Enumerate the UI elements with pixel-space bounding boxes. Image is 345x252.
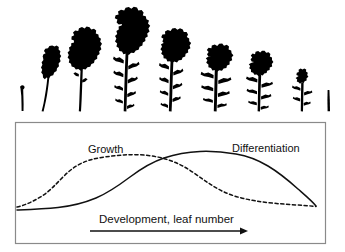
figure-container: Growth Differentiation Development, leaf… bbox=[0, 0, 345, 252]
development-axis-label: Development, leaf number bbox=[99, 213, 234, 225]
differentiation-label: Differentiation bbox=[232, 142, 300, 154]
growth-label: Growth bbox=[88, 143, 123, 155]
figure-svg: Growth Differentiation Development, leaf… bbox=[0, 0, 345, 252]
chart-panel: Growth Differentiation Development, leaf… bbox=[16, 123, 326, 244]
chart-border bbox=[16, 123, 326, 244]
development-arrow: Development, leaf number bbox=[90, 213, 248, 235]
